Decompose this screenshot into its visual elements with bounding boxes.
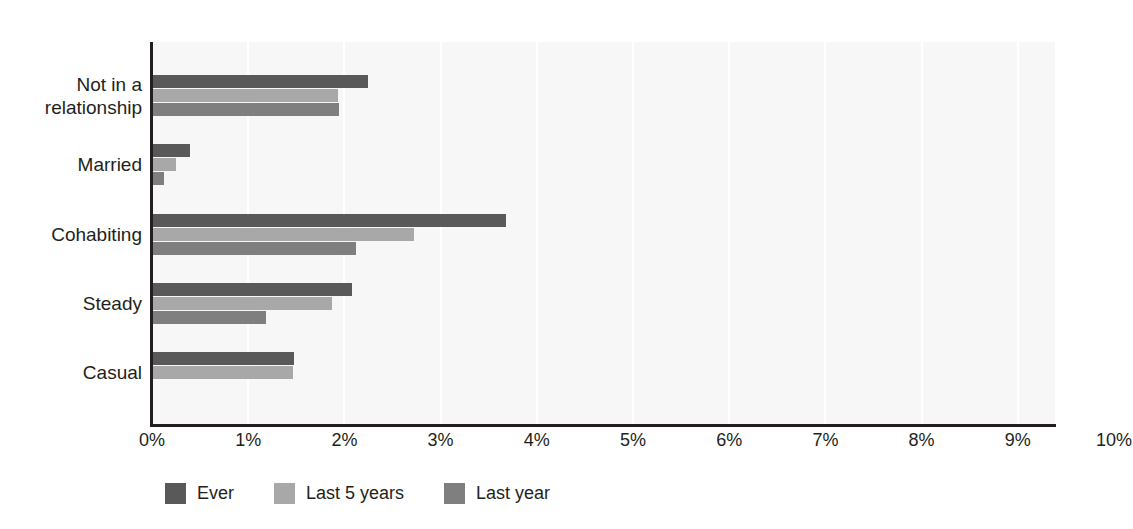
bar bbox=[152, 89, 338, 102]
category-label: Steady bbox=[0, 292, 142, 315]
category-label: Not in arelationship bbox=[0, 73, 142, 119]
bar bbox=[152, 144, 190, 157]
x-tick-label: 0% bbox=[139, 430, 165, 451]
legend-label: Last 5 years bbox=[306, 483, 404, 504]
x-tick-label: 4% bbox=[524, 430, 550, 451]
bar bbox=[152, 352, 294, 365]
x-tick-label: 1% bbox=[235, 430, 261, 451]
x-tick-label: 6% bbox=[716, 430, 742, 451]
x-tick-label: 9% bbox=[1005, 430, 1031, 451]
plot-area bbox=[152, 42, 1055, 425]
x-tick-label: 3% bbox=[428, 430, 454, 451]
bar bbox=[152, 214, 506, 227]
bar bbox=[152, 366, 293, 379]
category-label: Married bbox=[0, 153, 142, 176]
bar-chart: Not in arelationshipMarriedCohabitingSte… bbox=[0, 0, 1133, 529]
x-tick-label: 8% bbox=[909, 430, 935, 451]
x-tick-label: 5% bbox=[620, 430, 646, 451]
bar bbox=[152, 242, 356, 255]
bar bbox=[152, 297, 332, 310]
x-tick-label: 2% bbox=[331, 430, 357, 451]
legend-label: Last year bbox=[476, 483, 550, 504]
bar bbox=[152, 103, 339, 116]
bar-group bbox=[152, 352, 1055, 393]
legend-swatch-icon bbox=[165, 483, 186, 504]
chart-legend: EverLast 5 yearsLast year bbox=[165, 483, 550, 504]
bar bbox=[152, 283, 352, 296]
bar-group bbox=[152, 214, 1055, 255]
category-label: Cohabiting bbox=[0, 223, 142, 246]
x-tick-label: 7% bbox=[812, 430, 838, 451]
legend-label: Ever bbox=[197, 483, 234, 504]
bar-group bbox=[152, 75, 1055, 116]
legend-swatch-icon bbox=[444, 483, 465, 504]
legend-item-last-5-years[interactable]: Last 5 years bbox=[274, 483, 404, 504]
bar-group bbox=[152, 144, 1055, 185]
bar-group bbox=[152, 283, 1055, 324]
y-axis-line bbox=[150, 42, 153, 427]
legend-item-last-year[interactable]: Last year bbox=[444, 483, 550, 504]
bar bbox=[152, 311, 266, 324]
bar bbox=[152, 228, 414, 241]
bar bbox=[152, 158, 176, 171]
x-axis-line bbox=[150, 424, 1056, 427]
legend-swatch-icon bbox=[274, 483, 295, 504]
category-label: Casual bbox=[0, 361, 142, 384]
legend-item-ever[interactable]: Ever bbox=[165, 483, 234, 504]
bar bbox=[152, 75, 368, 88]
x-tick-label: 10% bbox=[1096, 430, 1132, 451]
bar bbox=[152, 172, 164, 185]
